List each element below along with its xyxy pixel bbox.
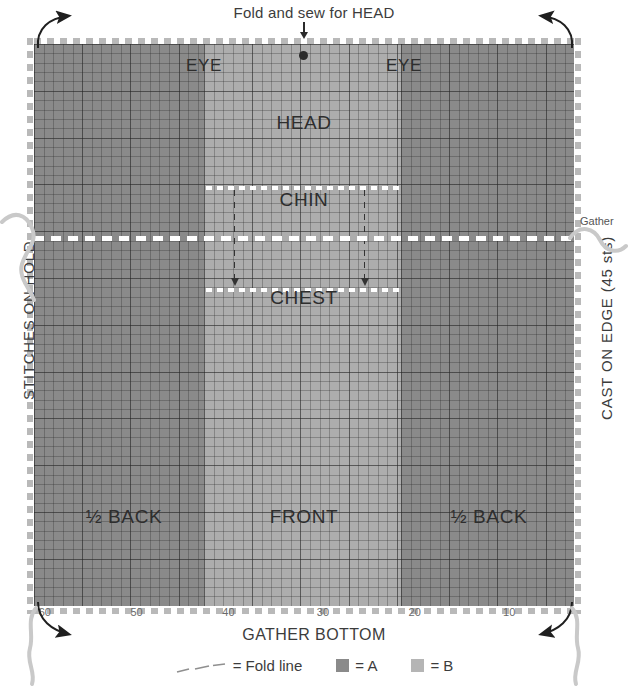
chin-to-chest-arrow-left-head <box>231 278 239 286</box>
knitting-chart: EYE EYE HEAD CHIN CHEST ½ BACK FRONT ½ B… <box>34 44 574 606</box>
light-swatch-icon <box>411 659 424 672</box>
label-head: HEAD <box>239 112 369 134</box>
dashed-line-icon <box>175 660 227 672</box>
legend-label-color-a: = A <box>355 657 377 674</box>
ruler-tick: 40 <box>222 606 234 618</box>
stitches-on-hold-label: STITCHES ON HOLD <box>20 241 37 400</box>
chart-grid-area: EYE EYE HEAD CHIN CHEST ½ BACK FRONT ½ B… <box>34 44 574 606</box>
fold-center-dot <box>299 51 308 60</box>
ruler-tick: 20 <box>409 606 421 618</box>
dark-swatch-icon <box>336 659 349 672</box>
legend-item-color-a: = A <box>336 657 377 674</box>
label-chest: CHEST <box>239 287 369 309</box>
legend-item-fold-line: = Fold line <box>175 657 303 674</box>
legend: = Fold line = A = B <box>0 657 628 674</box>
gather-side-label: Gather <box>580 215 614 227</box>
cast-on-edge-label: CAST ON EDGE (45 sts) <box>598 236 615 420</box>
legend-item-color-b: = B <box>411 657 453 674</box>
mid-fold-line <box>34 236 574 241</box>
label-back-left: ½ BACK <box>59 506 189 528</box>
legend-label-fold-line: = Fold line <box>233 657 303 674</box>
label-front: FRONT <box>239 506 369 528</box>
ruler-tick: 10 <box>503 606 515 618</box>
ruler-tick: 50 <box>130 606 142 618</box>
stitch-ruler: 60 50 40 30 20 10 <box>34 606 574 622</box>
label-back-right: ½ BACK <box>424 506 554 528</box>
chin-to-chest-arrow-right-head <box>361 278 369 286</box>
legend-label-color-b: = B <box>430 657 453 674</box>
ruler-tick: 60 <box>39 606 51 618</box>
ruler-tick: 30 <box>317 606 329 618</box>
label-eye-right: EYE <box>374 56 434 76</box>
label-chin: CHIN <box>239 189 369 211</box>
label-eye-left: EYE <box>174 56 234 76</box>
fold-and-sew-caption: Fold and sew for HEAD <box>0 4 628 21</box>
gather-bottom-label: GATHER BOTTOM <box>0 626 628 644</box>
fold-line-right <box>575 38 581 614</box>
fold-point-arrow-line <box>303 22 305 36</box>
